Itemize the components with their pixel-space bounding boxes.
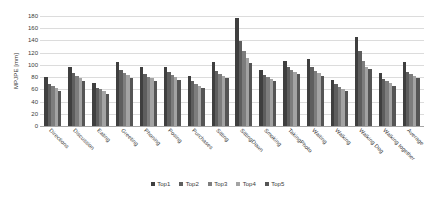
legend-item[interactable]: Top5 (265, 181, 285, 187)
x-axis-tick: Sitting (215, 127, 230, 142)
legend-swatch-icon (179, 182, 183, 186)
bar-group (304, 16, 328, 126)
y-axis-tick: 120 (28, 50, 38, 56)
x-axis-tick: Average (406, 127, 425, 146)
legend-label: Top5 (271, 181, 284, 187)
y-axis-tick: 0 (35, 123, 38, 129)
bar (82, 81, 85, 126)
bar (392, 86, 395, 126)
bar (106, 94, 109, 126)
legend-swatch-icon (236, 182, 240, 186)
legend-label: Top2 (186, 181, 199, 187)
bar-group (280, 16, 304, 126)
y-axis-tick: 160 (28, 25, 38, 31)
bar-group (256, 16, 280, 126)
y-axis-tick: 180 (28, 13, 38, 19)
bar-group (328, 16, 352, 126)
legend-item[interactable]: Top1 (151, 181, 171, 187)
y-axis-tick: 60 (31, 86, 38, 92)
bar (201, 88, 204, 126)
bar (154, 81, 157, 126)
x-axis-tick-cell: Eating (89, 127, 113, 179)
legend-item[interactable]: Top4 (236, 181, 256, 187)
y-axis-tick: 20 (31, 111, 38, 117)
bar-group (184, 16, 208, 126)
legend-label: Top1 (157, 181, 170, 187)
legend-label: Top4 (243, 181, 256, 187)
x-axis-tick-cell: Directions (41, 127, 65, 179)
bar-group (232, 16, 256, 126)
y-axis-tick: 80 (31, 74, 38, 80)
x-axis-tick-cell: Waiting (304, 127, 328, 179)
x-axis-tick: Waiting (311, 127, 329, 145)
y-axis-tick-labels: 020406080100120140160180 (22, 16, 38, 126)
x-axis-tick-cell: Greeting (113, 127, 137, 179)
bar (368, 69, 371, 126)
bar (130, 78, 133, 126)
bar (416, 78, 419, 126)
bar-group (65, 16, 89, 126)
x-axis-tick-cell: Walking Dog (351, 127, 375, 179)
x-axis-tick-cell: Walking (328, 127, 352, 179)
x-axis-tick: Posing (167, 127, 184, 144)
bar-group (41, 16, 65, 126)
y-axis-tick: 40 (31, 99, 38, 105)
bar-group (113, 16, 137, 126)
x-axis-tick-cell: Phoning (137, 127, 161, 179)
legend-swatch-icon (265, 182, 269, 186)
bar (297, 74, 300, 126)
bar-chart: MPJPE [mm] 020406080100120140160180 Dire… (0, 0, 435, 201)
chart-legend: Top1Top2Top3Top4Top5 (0, 181, 435, 187)
bar (321, 76, 324, 126)
bar (58, 91, 61, 126)
x-axis-tick-cell: Walking together (375, 127, 399, 179)
bar (345, 91, 348, 126)
y-axis-tick: 140 (28, 37, 38, 43)
x-axis-tick-cell: Average (399, 127, 423, 179)
bar (249, 63, 252, 126)
legend-swatch-icon (151, 182, 155, 186)
x-axis-tick-cell: TakingPhoto (280, 127, 304, 179)
bar-group (208, 16, 232, 126)
bar-group (160, 16, 184, 126)
bar (177, 80, 180, 126)
legend-label: Top3 (214, 181, 227, 187)
legend-item[interactable]: Top2 (179, 181, 199, 187)
bar-group (137, 16, 161, 126)
x-axis-tick-cell: SittingDown (232, 127, 256, 179)
x-axis-tick-cell: Posing (160, 127, 184, 179)
plot-area (40, 16, 424, 127)
legend-swatch-icon (208, 182, 212, 186)
bar-group (89, 16, 113, 126)
x-axis-tick-labels: DirectionsDiscussionEatingGreetingPhonin… (40, 127, 424, 179)
bar (273, 81, 276, 126)
y-axis-tick: 100 (28, 62, 38, 68)
bar-group (351, 16, 375, 126)
x-axis-tick-cell: Smoking (256, 127, 280, 179)
bar-group (375, 16, 399, 126)
x-axis-tick: Eating (96, 127, 112, 143)
x-axis-tick-cell: Sitting (208, 127, 232, 179)
bar-group (399, 16, 423, 126)
legend-item[interactable]: Top3 (208, 181, 228, 187)
x-axis-tick-cell: Purchases (184, 127, 208, 179)
bar (225, 78, 228, 126)
x-axis-tick: Walking (334, 127, 352, 145)
bar-groups (40, 16, 424, 126)
x-axis-tick-cell: Discussion (65, 127, 89, 179)
